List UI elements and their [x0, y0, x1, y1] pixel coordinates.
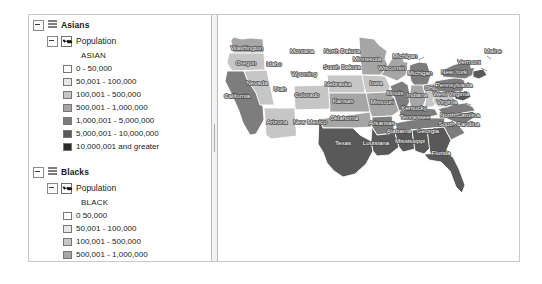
map-canvas[interactable]: Washington Oregon Idaho Montana Wyoming … — [219, 15, 519, 261]
screenshot-root: Asians Population ASIAN 0 - 50,000 50,00… — [0, 0, 542, 284]
legend-class-label: 0 - 50,000 — [76, 65, 112, 73]
layer-group-blacks: Blacks Population BLACK 0 50,000 50,001 — [29, 165, 211, 261]
classification-field-black: BLACK — [29, 196, 211, 209]
state-label-north-carolina: North Carolina — [440, 111, 480, 118]
field-name-label: ASIAN — [81, 52, 106, 60]
state-label-virginia: Virginia — [437, 98, 458, 105]
state-label-florida: Florida — [432, 149, 451, 156]
state-label-michigan: Michigan — [408, 69, 433, 76]
legend-class-item[interactable]: 10,000,001 and greater — [29, 140, 211, 153]
table-of-contents-panel[interactable]: Asians Population ASIAN 0 - 50,000 50,00… — [29, 15, 211, 261]
state-label-idaho: Idaho — [266, 60, 282, 67]
us-choropleth-svg: Washington Oregon Idaho Montana Wyoming … — [219, 15, 519, 261]
legend-class-label: 1,000,001 - 5,000,000 — [76, 117, 154, 125]
state-label-alabama: Alabama — [387, 127, 412, 134]
checked-checkbox-icon[interactable] — [61, 36, 72, 47]
state-label-utah: Utah — [273, 85, 287, 92]
legend-class-item[interactable]: 50,001 - 100,000 — [29, 75, 211, 88]
map-view-pane[interactable]: Washington Oregon Idaho Montana Wyoming … — [219, 15, 519, 261]
state-label-pennsylvania: Pennsylvania — [436, 81, 473, 88]
legend-class-label: 10,000,001 and greater — [76, 143, 159, 151]
state-label-indiana: Indiana — [407, 91, 428, 98]
legend-swatch — [63, 130, 72, 138]
panel-splitter[interactable] — [211, 15, 218, 261]
minus-box-icon[interactable] — [47, 183, 58, 194]
legend-class-item[interactable]: 50,001 - 100,000 — [29, 222, 211, 235]
state-label-minnesota: Minnesota — [353, 55, 382, 62]
state-label-georgia: Georgia — [417, 127, 440, 134]
state-label-kentucky: Kentucky — [401, 104, 427, 111]
state-label-nevada: Nevada — [246, 79, 268, 86]
minus-box-icon[interactable] — [33, 20, 44, 31]
legend-class-label: 50,001 - 100,000 — [76, 225, 137, 233]
state-label-michigan-upper: Michigan — [393, 52, 418, 59]
legend-swatch — [63, 117, 72, 125]
legend-swatch — [63, 225, 72, 233]
legend-swatch — [63, 78, 72, 86]
legend-class-label: 0 50,000 — [76, 212, 107, 220]
state-label-louisiana: Louisiana — [363, 139, 390, 146]
state-label-california: California — [224, 92, 251, 99]
state-label-oklahoma: Oklahoma — [330, 114, 359, 121]
state-label-south-dakota: South Dakota — [323, 63, 361, 70]
group-label: Asians — [61, 21, 89, 30]
state-label-vermont: Vermont — [457, 58, 480, 65]
field-name-label: BLACK — [81, 199, 108, 207]
state-label-kansas: Kansas — [333, 97, 354, 104]
classification-field-asian: ASIAN — [29, 49, 211, 62]
legend-swatch — [63, 251, 72, 259]
legend-class-item[interactable]: 100,001 - 500,000 — [29, 235, 211, 248]
state-label-colorado: Colorado — [294, 91, 320, 98]
legend-class-label: 50,001 - 100,000 — [76, 78, 137, 86]
layer-stack-icon — [47, 20, 58, 30]
map-document-window: Asians Population ASIAN 0 - 50,000 50,00… — [28, 14, 520, 262]
state-label-arkansas: Arkansas — [369, 119, 395, 126]
state-label-new-york: New York — [441, 68, 468, 75]
state-label-tennessee: Tennessee — [400, 113, 430, 120]
layer-label: Population — [76, 37, 116, 46]
state-label-missouri: Missouri — [370, 98, 393, 105]
layer-row-population-black[interactable]: Population — [29, 181, 211, 195]
layer-label: Population — [76, 184, 116, 193]
legend-class-label: 500,001 - 1,000,000 — [76, 251, 148, 259]
state-label-illinois: Illinois — [386, 89, 403, 96]
state-label-maine: Maine — [485, 47, 502, 54]
layer-group-asians: Asians Population ASIAN 0 - 50,000 50,00… — [29, 18, 211, 153]
state-label-south-carolina: South Carolina — [439, 120, 480, 127]
state-label-iowa: Iowa — [369, 79, 383, 86]
legend-class-item[interactable]: 0 - 50,000 — [29, 62, 211, 75]
minus-box-icon[interactable] — [47, 36, 58, 47]
state-label-north-dakota: North Dakota — [324, 47, 361, 54]
legend-swatch — [63, 238, 72, 246]
state-label-texas: Texas — [335, 139, 351, 146]
legend-swatch — [63, 212, 72, 220]
group-label: Blacks — [61, 168, 89, 177]
legend-swatch — [63, 104, 72, 112]
legend-class-item[interactable]: 0 50,000 — [29, 209, 211, 222]
state-label-arizona: Arizona — [267, 118, 289, 125]
state-new-england-south[interactable] — [473, 69, 487, 79]
legend-class-label: 100,001 - 500,000 — [76, 91, 141, 99]
minus-box-icon[interactable] — [33, 167, 44, 178]
state-label-montana: Montana — [290, 47, 315, 54]
legend-swatch — [63, 143, 72, 151]
legend-class-item[interactable]: 5,000,001 - 10,000,000 — [29, 127, 211, 140]
layer-stack-icon — [47, 167, 58, 177]
group-header-blacks[interactable]: Blacks — [29, 165, 211, 179]
state-florida[interactable] — [424, 153, 465, 193]
legend-class-label: 5,000,001 - 10,000,000 — [76, 130, 159, 138]
legend-class-item[interactable]: 1,000,001 - 5,000,000 — [29, 114, 211, 127]
state-label-nebraska: Nebraska — [325, 80, 352, 87]
legend-class-item[interactable]: 500,001 - 1,000,000 — [29, 101, 211, 114]
legend-class-item[interactable]: 500,001 - 1,000,000 — [29, 248, 211, 261]
group-header-asians[interactable]: Asians — [29, 18, 211, 32]
legend-class-item[interactable]: 100,001 - 500,000 — [29, 88, 211, 101]
checked-checkbox-icon[interactable] — [61, 183, 72, 194]
legend-class-label: 100,001 - 500,000 — [76, 238, 141, 246]
layer-row-population-asian[interactable]: Population — [29, 34, 211, 48]
legend-class-label: 500,001 - 1,000,000 — [76, 104, 148, 112]
state-label-oregon: Oregon — [236, 59, 257, 66]
state-label-west-virginia: West Virginia — [433, 90, 470, 97]
state-label-new-mexico: New Mexico — [293, 118, 327, 125]
state-label-wisconsin: Wisconsin — [378, 64, 407, 71]
